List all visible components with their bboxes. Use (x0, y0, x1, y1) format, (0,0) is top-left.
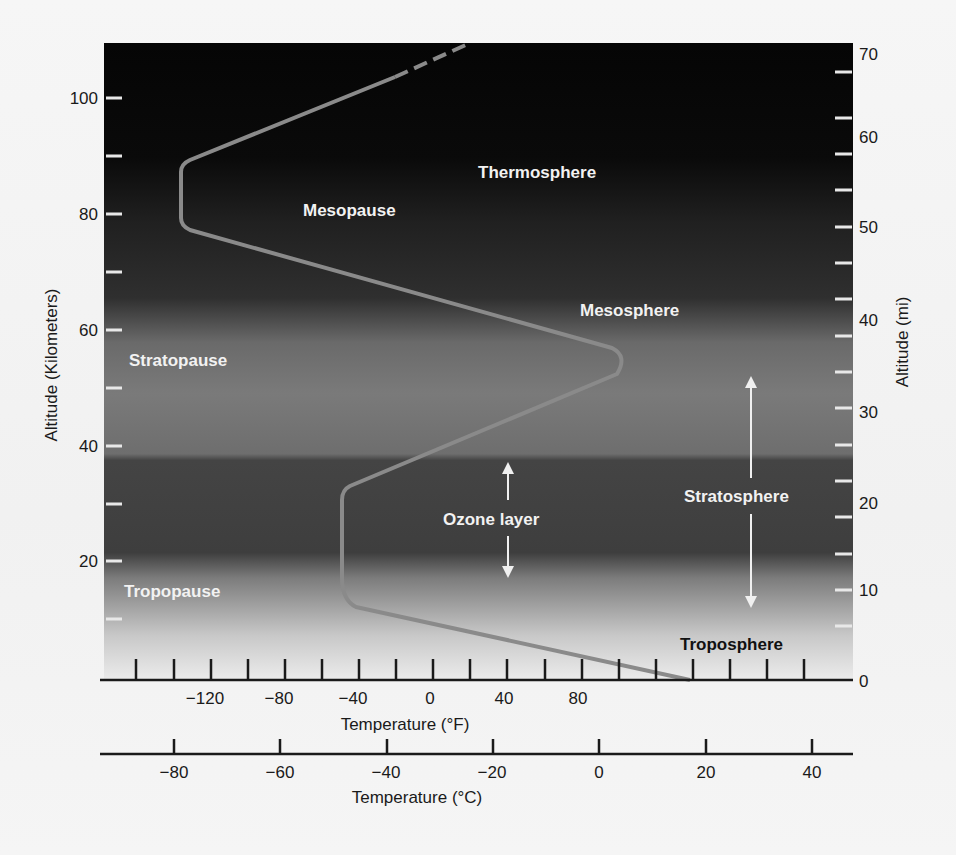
svg-text:−60: −60 (266, 763, 295, 782)
label-tropopause: Tropopause (124, 582, 220, 601)
svg-text:40: 40 (79, 437, 98, 456)
label-mesosphere: Mesosphere (580, 301, 679, 320)
svg-text:40: 40 (495, 689, 514, 708)
svg-text:0: 0 (425, 689, 434, 708)
svg-text:−80: −80 (160, 763, 189, 782)
label-troposphere: Troposphere (680, 635, 783, 654)
svg-text:10: 10 (859, 581, 878, 600)
svg-text:20: 20 (859, 494, 878, 513)
svg-text:50: 50 (859, 218, 878, 237)
svg-text:70: 70 (859, 45, 878, 64)
label-stratosphere: Stratosphere (684, 487, 789, 506)
right-axis-labels: 70 60 50 40 30 20 10 0 (859, 45, 878, 691)
svg-text:60: 60 (79, 321, 98, 340)
svg-text:40: 40 (859, 311, 878, 330)
svg-text:−40: −40 (339, 689, 368, 708)
svg-text:−40: −40 (372, 763, 401, 782)
label-mesopause: Mesopause (303, 201, 396, 220)
svg-text:30: 30 (859, 403, 878, 422)
svg-text:60: 60 (859, 128, 878, 147)
right-axis-title: Altitude (mi) (893, 297, 912, 388)
svg-text:20: 20 (697, 763, 716, 782)
svg-text:0: 0 (594, 763, 603, 782)
svg-text:−120: −120 (186, 689, 224, 708)
celsius-axis-title: Temperature (°C) (352, 788, 483, 807)
label-ozone-layer: Ozone layer (443, 510, 540, 529)
svg-text:20: 20 (79, 552, 98, 571)
svg-text:80: 80 (569, 689, 588, 708)
svg-text:40: 40 (803, 763, 822, 782)
svg-text:100: 100 (70, 89, 98, 108)
celsius-axis (100, 739, 853, 754)
left-axis-labels: 100 80 60 40 20 (70, 89, 98, 571)
svg-text:−20: −20 (478, 763, 507, 782)
fahrenheit-tick-labels: −120 −80 −40 0 40 80 (186, 689, 588, 708)
svg-text:0: 0 (859, 672, 868, 691)
label-thermosphere: Thermosphere (478, 163, 596, 182)
atmosphere-temperature-chart: Thermosphere Mesopause Mesosphere Strato… (0, 0, 956, 855)
left-axis-title: Altitude (Kilometers) (42, 288, 61, 441)
label-stratopause: Stratopause (129, 351, 227, 370)
celsius-tick-labels: −80 −60 −40 −20 0 20 40 (160, 763, 822, 782)
fahrenheit-axis-title: Temperature (°F) (341, 715, 470, 734)
svg-text:−80: −80 (265, 689, 294, 708)
svg-text:80: 80 (79, 205, 98, 224)
